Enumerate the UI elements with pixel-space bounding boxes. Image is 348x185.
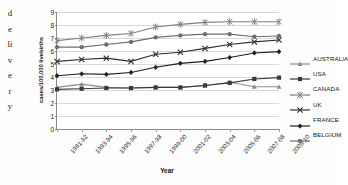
x-tick-label: 1993-94 — [93, 133, 113, 155]
data-point-diamond — [153, 65, 158, 70]
margin-char-5: r — [9, 84, 12, 100]
data-point-square — [129, 86, 133, 90]
series-line — [57, 78, 279, 90]
x-tick-mark — [254, 129, 255, 132]
data-point-circle — [55, 45, 59, 49]
legend-label: UK — [313, 101, 322, 108]
plot-area: 0123456789 — [56, 12, 279, 130]
x-tick-label: 1999-00 — [167, 133, 187, 155]
series-uk — [54, 37, 281, 64]
margin-char-6: y — [8, 99, 13, 115]
data-point-circle — [79, 45, 83, 49]
data-point-circle — [298, 139, 302, 143]
data-point-diamond — [277, 49, 282, 54]
data-point-circle — [277, 34, 281, 38]
legend-item-france[interactable]: FRANCE — [290, 116, 348, 124]
x-axis-title: Year — [56, 167, 278, 174]
x-tick-mark — [57, 129, 58, 132]
x-tick-mark — [205, 129, 206, 132]
legend-label: FRANCE — [313, 116, 339, 123]
series-belgium — [55, 32, 281, 49]
series-line — [57, 22, 279, 41]
legend-item-australia[interactable]: AUSTRALIA — [290, 54, 348, 62]
data-point-circle — [129, 40, 133, 44]
data-point-diamond — [252, 50, 257, 55]
legend-marker-triangle-icon — [290, 54, 310, 62]
data-point-diamond — [104, 72, 109, 77]
series-line — [57, 52, 279, 76]
x-tick-mark — [156, 129, 157, 132]
y-tick-label: 9 — [50, 9, 54, 16]
x-tick-label: 2007-08 — [266, 133, 286, 155]
series-line — [57, 40, 279, 61]
data-point-square — [203, 83, 207, 87]
data-point-square — [277, 76, 281, 80]
legend-label: USA — [313, 70, 326, 77]
data-point-diamond — [227, 55, 232, 60]
y-tick-label: 6 — [50, 48, 54, 55]
margin-char-1: e — [8, 22, 12, 38]
y-tick-label: 5 — [50, 61, 54, 68]
x-tick-label: 2001-02 — [192, 133, 212, 155]
legend-marker-star-icon — [290, 85, 310, 93]
y-tick-label: 7 — [50, 35, 54, 42]
x-tick-mark — [279, 129, 280, 132]
data-point-square — [178, 85, 182, 89]
legend-label: CANADA — [313, 85, 339, 92]
legend-label: BELGIUM — [313, 131, 342, 138]
x-tick-mark — [82, 129, 83, 132]
data-point-square — [228, 81, 232, 85]
y-tick-label: 0 — [50, 126, 54, 133]
y-tick-label: 8 — [50, 22, 54, 29]
series-usa — [55, 76, 281, 92]
x-tick-label: 2005-06 — [241, 133, 261, 155]
data-point-circle — [227, 32, 231, 36]
data-point-diamond — [129, 70, 134, 75]
data-point-diamond — [178, 61, 183, 66]
chart-legend: AUSTRALIAUSACANADAUKFRANCEBELGIUM — [290, 54, 348, 139]
data-point-square — [80, 87, 84, 91]
data-point-square — [252, 77, 256, 81]
margin-char-3: v — [8, 53, 13, 69]
x-tick-mark — [230, 129, 231, 132]
y-tick-label: 3 — [50, 87, 54, 94]
data-point-square — [104, 86, 108, 90]
data-point-square — [298, 77, 302, 81]
legend-marker-square-icon — [290, 69, 310, 77]
x-tick-mark — [131, 129, 132, 132]
data-point-diamond — [79, 71, 84, 76]
data-point-circle — [178, 33, 182, 37]
margin-char-2: li — [7, 37, 12, 53]
x-tick-label: 1997-98 — [143, 133, 163, 155]
legend-label: AUSTRALIA — [313, 55, 348, 62]
line-chart: cases/100,000 livebirths 0123456789 1991… — [18, 2, 339, 185]
x-tick-mark — [106, 129, 107, 132]
series-canada — [54, 18, 281, 44]
data-point-circle — [203, 32, 207, 36]
y-tick-label: 2 — [50, 100, 54, 107]
data-point-circle — [252, 34, 256, 38]
legend-marker-diamond-icon — [290, 116, 310, 124]
x-tick-mark — [180, 129, 181, 132]
legend-marker-circle-icon — [290, 131, 310, 139]
y-tick-label: 4 — [50, 74, 54, 81]
data-point-square — [55, 87, 59, 91]
x-tick-label: 1991-92 — [69, 133, 89, 155]
legend-item-usa[interactable]: USA — [290, 69, 348, 77]
series-line — [57, 34, 279, 47]
legend-marker-cross-icon — [290, 100, 310, 108]
margin-char-0: d — [8, 6, 13, 22]
data-point-circle — [153, 35, 157, 39]
x-tick-label: 1995-96 — [118, 133, 138, 155]
margin-cutoff-text: d e li v e r y — [2, 6, 18, 115]
data-point-square — [154, 85, 158, 89]
y-axis-label: cases/100,000 livebirths — [38, 24, 48, 116]
data-point-diamond — [298, 123, 303, 128]
y-tick-label: 1 — [50, 113, 54, 120]
margin-char-4: e — [8, 68, 12, 84]
legend-item-uk[interactable]: UK — [290, 100, 348, 108]
legend-item-canada[interactable]: CANADA — [290, 85, 348, 93]
x-tick-label: 2003-04 — [217, 133, 237, 155]
legend-item-belgium[interactable]: BELGIUM — [290, 131, 348, 139]
